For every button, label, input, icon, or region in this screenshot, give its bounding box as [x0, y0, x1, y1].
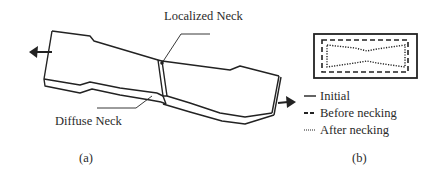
localized-neck-label: Localized Neck	[164, 10, 243, 23]
panel-b-caption: (b)	[352, 152, 367, 165]
localized-neck-marker	[160, 61, 164, 65]
leader-lines	[97, 34, 210, 108]
right-arrow-icon	[278, 96, 296, 108]
after-necking-outline	[327, 45, 405, 67]
before-necking-outline	[322, 40, 408, 72]
necking-diagram	[0, 0, 442, 184]
panel-a-caption: (a)	[79, 152, 93, 165]
legend-before-necking-label: Before necking	[320, 107, 397, 120]
tensile-specimen	[44, 31, 281, 124]
cross-section-panel	[314, 34, 417, 78]
diffuse-neck-label: Diffuse Neck	[55, 115, 122, 128]
legend-after-necking-label: After necking	[320, 124, 389, 137]
legend-initial-label: Initial	[320, 90, 350, 103]
